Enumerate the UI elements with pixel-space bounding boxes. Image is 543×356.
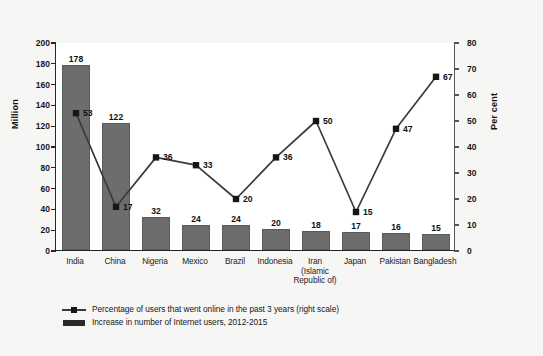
bar-value-label-3: 32 bbox=[136, 207, 176, 216]
y-tick-label-right: 20 bbox=[467, 195, 491, 204]
y-tick-right bbox=[454, 68, 459, 69]
y-axis-left-title: Million bbox=[10, 99, 20, 129]
bar-value-label-2: 122 bbox=[96, 113, 136, 122]
line-value-label-8: 15 bbox=[363, 208, 373, 217]
line-value-label-3: 36 bbox=[163, 153, 173, 162]
y-tick-label-right: 30 bbox=[467, 169, 491, 178]
y-tick-label-left: 40 bbox=[26, 205, 50, 214]
y-tick-label-left: 180 bbox=[26, 60, 50, 69]
y-tick-label-right: 40 bbox=[467, 143, 491, 152]
y-tick-label-right: 60 bbox=[467, 91, 491, 100]
chart-page: Million Per cent 02040608010012014016018… bbox=[0, 0, 543, 356]
bar-value-label-5: 24 bbox=[216, 215, 256, 224]
y-tick-label-right: 80 bbox=[467, 39, 491, 48]
bar-value-label-4: 24 bbox=[176, 215, 216, 224]
y-tick-right bbox=[454, 250, 459, 251]
y-tick-label-left: 80 bbox=[26, 164, 50, 173]
y-tick-label-left: 120 bbox=[26, 122, 50, 131]
bar-value-label-6: 20 bbox=[256, 219, 296, 228]
y-tick-label-left: 140 bbox=[26, 101, 50, 110]
y-tick-label-left: 0 bbox=[26, 247, 50, 256]
legend-item-line: Percentage of users that went online in … bbox=[62, 303, 462, 316]
bar-swatch-icon bbox=[62, 317, 86, 328]
y-tick-right bbox=[454, 146, 459, 147]
bar-value-label-8: 17 bbox=[336, 222, 376, 231]
legend-label-bar: Increase in number of Internet users, 20… bbox=[92, 318, 267, 326]
y-tick-label-right: 70 bbox=[467, 65, 491, 74]
bar-value-label-1: 178 bbox=[56, 55, 96, 64]
y-tick-right bbox=[454, 198, 459, 199]
line-value-label-10: 67 bbox=[443, 73, 453, 82]
y-tick-right bbox=[454, 120, 459, 121]
data-labels-layer: 1781223224242018171615531736332036501547… bbox=[56, 43, 454, 250]
plot-area: 1781223224242018171615531736332036501547… bbox=[55, 43, 455, 251]
line-value-label-5: 20 bbox=[243, 195, 253, 204]
y-tick-label-left: 20 bbox=[26, 226, 50, 235]
bar-value-label-9: 16 bbox=[376, 223, 416, 232]
y-tick-label-right: 50 bbox=[467, 117, 491, 126]
chart-legend: Percentage of users that went online in … bbox=[62, 303, 462, 329]
legend-item-bar: Increase in number of Internet users, 20… bbox=[62, 316, 462, 329]
line-value-label-4: 33 bbox=[203, 161, 213, 170]
y-tick-left bbox=[51, 250, 56, 251]
y-tick-label-right: 10 bbox=[467, 221, 491, 230]
line-value-label-2: 17 bbox=[123, 203, 133, 212]
y-tick-right bbox=[454, 94, 459, 95]
y-tick-label-left: 160 bbox=[26, 81, 50, 90]
line-marker-icon bbox=[62, 304, 86, 315]
y-tick-label-left: 200 bbox=[26, 39, 50, 48]
y-tick-label-left: 60 bbox=[26, 185, 50, 194]
y-tick-label-left: 100 bbox=[26, 143, 50, 152]
y-tick-label-right: 0 bbox=[467, 247, 491, 256]
bar-value-label-10: 15 bbox=[416, 224, 456, 233]
line-value-label-6: 36 bbox=[283, 153, 293, 162]
line-value-label-1: 53 bbox=[83, 109, 93, 118]
line-value-label-7: 50 bbox=[323, 117, 333, 126]
y-tick-right bbox=[454, 172, 459, 173]
line-value-label-9: 47 bbox=[403, 125, 413, 134]
y-tick-right bbox=[454, 42, 459, 43]
legend-label-line: Percentage of users that went online in … bbox=[92, 305, 339, 313]
bar-value-label-7: 18 bbox=[296, 221, 336, 230]
x-axis-label-10: Bangladesh bbox=[410, 257, 460, 267]
